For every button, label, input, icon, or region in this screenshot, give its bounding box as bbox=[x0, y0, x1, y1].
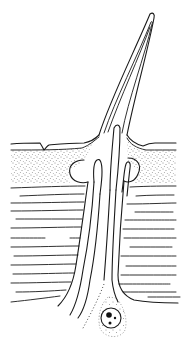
trunk-left-3 bbox=[78, 194, 100, 318]
process-left-loop bbox=[94, 160, 102, 195]
endocuticle-left bbox=[11, 186, 85, 302]
hair-shaft-lumen bbox=[104, 22, 152, 133]
trunk-left-outer bbox=[58, 182, 88, 306]
nucleolus-large bbox=[106, 312, 112, 318]
trunk-right-inner bbox=[112, 190, 118, 302]
trunk-center bbox=[104, 190, 110, 280]
sensillum-diagram bbox=[0, 0, 190, 347]
diagram-canvas bbox=[0, 0, 190, 347]
trunk-right-outer bbox=[118, 181, 178, 303]
hair-shaft-outer bbox=[99, 13, 154, 135]
sensory-cell bbox=[99, 297, 126, 337]
nucleolus-small-1 bbox=[114, 317, 116, 319]
nucleolus-small-2 bbox=[109, 322, 112, 325]
hair-shaft-inner-left bbox=[108, 27, 150, 132]
endocuticle-right bbox=[119, 186, 180, 297]
epicuticle-right bbox=[127, 135, 176, 146]
nucleus-outline bbox=[101, 308, 121, 328]
dendrite-central bbox=[110, 125, 120, 190]
